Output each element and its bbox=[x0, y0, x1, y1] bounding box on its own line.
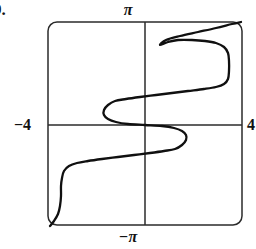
figure-root: 9. π −π −4 4 bbox=[0, 0, 256, 249]
plot-area bbox=[0, 0, 256, 249]
